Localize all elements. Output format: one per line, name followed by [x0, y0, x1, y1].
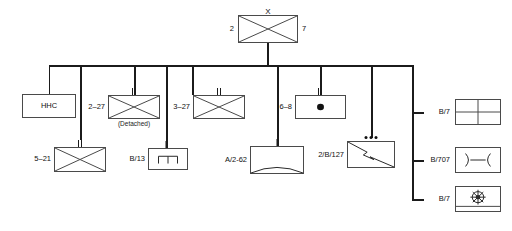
unit-note-2-27-detached: (Detached)	[118, 121, 150, 128]
echelon-bar-icon	[321, 88, 322, 95]
medical-quadrants-icon	[456, 100, 500, 124]
infantry-cross-icon	[239, 16, 297, 42]
echelon-marker-root: X	[265, 8, 270, 15]
connector-branch-b-7-medical	[412, 112, 424, 114]
reconnaissance-dot-icon	[296, 96, 345, 118]
unit-box-5-21[interactable]	[54, 147, 106, 172]
echelon-bar-icon	[220, 88, 221, 95]
unit-label-a-2-62: A/2-62	[225, 156, 247, 164]
unit-box-b-707-maintenance[interactable]	[455, 147, 501, 173]
unit-box-3-27[interactable]	[193, 95, 245, 119]
unit-label-b-707: B/707	[430, 156, 450, 164]
unit-box-b-7-supply[interactable]	[455, 186, 501, 212]
connector-drop-5-21	[80, 65, 82, 140]
signal-lightning-icon	[348, 142, 394, 167]
echelon-bar-icon	[318, 88, 319, 95]
echelon-bar-icon	[78, 140, 79, 147]
echelon-dot-icon	[370, 136, 373, 139]
echelon-dot-icon	[375, 136, 378, 139]
unit-label-3-27: 3–27	[173, 103, 190, 111]
air-defense-arc-icon	[251, 147, 303, 173]
echelon-dot-icon	[365, 136, 368, 139]
echelon-bar-icon	[81, 140, 82, 147]
connector-branch-b-707	[412, 160, 424, 162]
unit-label-hhc: HHC	[41, 102, 57, 110]
connector-drop-b-13	[166, 65, 168, 148]
engineer-bracket-icon	[149, 149, 187, 169]
echelon-bar-icon	[132, 88, 133, 95]
echelon-bar-icon	[166, 141, 167, 148]
echelon-x-glyph: X	[265, 8, 270, 15]
infantry-cross-icon	[109, 96, 159, 118]
echelon-marker-a-2-62	[277, 139, 278, 146]
unit-box-2-b-127[interactable]	[347, 141, 395, 168]
unit-box-2-27[interactable]	[108, 95, 160, 119]
echelon-marker-6-8	[318, 88, 322, 95]
echelon-bar-icon	[277, 139, 278, 146]
connector-branch-b-7-supply	[412, 199, 424, 201]
unit-box-a-2-62[interactable]	[250, 146, 304, 174]
unit-label-b-13: B/13	[130, 155, 145, 163]
unit-label-6-8: 6–8	[279, 103, 292, 111]
unit-label-5-21: 5–21	[34, 155, 51, 163]
org-chart-canvas: X 2 7 HHC	[0, 0, 512, 231]
echelon-marker-5-21	[78, 140, 82, 147]
infantry-cross-icon	[55, 148, 105, 171]
unit-label-2-27: 2–27	[88, 103, 105, 111]
connector-root-stem	[267, 43, 269, 66]
unit-label-root-right: 7	[302, 25, 306, 33]
infantry-cross-icon	[194, 96, 244, 118]
connector-drop-hhc	[49, 65, 50, 94]
connector-drop-3-27	[192, 65, 194, 95]
unit-label-root-left: 2	[230, 25, 234, 33]
unit-label-b-7-medical: B/7	[439, 108, 450, 116]
echelon-bar-icon	[217, 88, 218, 95]
maintenance-arcs-icon	[456, 148, 500, 172]
unit-label-b-7-supply: B/7	[439, 195, 450, 203]
unit-box-b-13[interactable]	[148, 148, 188, 170]
supply-wheel-icon	[456, 187, 500, 211]
echelon-bar-icon	[135, 88, 136, 95]
echelon-marker-3-27	[217, 88, 221, 95]
unit-label-2-b-127: 2/B/127	[318, 151, 344, 159]
echelon-marker-2-27	[132, 88, 136, 95]
connector-drop-2-b-127	[371, 65, 373, 138]
echelon-marker-2-b-127	[365, 133, 378, 140]
unit-box-b-7-medical[interactable]	[455, 99, 501, 125]
connector-main-bus	[49, 65, 413, 67]
echelon-marker-b-13	[166, 141, 167, 148]
unit-box-6-8[interactable]	[295, 95, 346, 119]
unit-box-root-2-7[interactable]	[238, 15, 298, 43]
connector-support-spine	[412, 65, 414, 200]
